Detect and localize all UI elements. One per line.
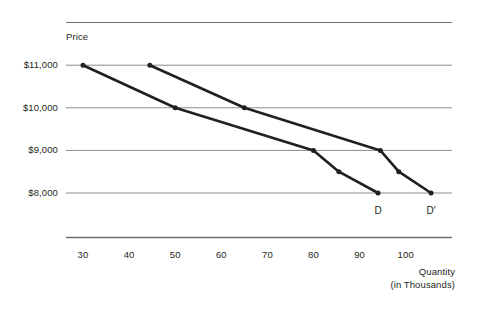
- x-tick-label-50: 50: [155, 249, 195, 260]
- data-point-marker: [242, 105, 247, 110]
- data-curves-group: [83, 65, 431, 193]
- data-point-marker: [147, 63, 152, 68]
- curve-D-line: [83, 65, 378, 193]
- curve-D-line: [150, 65, 431, 193]
- demand-curve-chart: Price Quantity (in Thousands) $8,000$9,0…: [0, 0, 478, 311]
- data-point-marker: [336, 169, 341, 174]
- data-point-marker: [378, 148, 383, 153]
- data-point-marker: [376, 191, 381, 196]
- data-point-marker: [81, 63, 86, 68]
- x-tick-label-40: 40: [109, 249, 149, 260]
- x-tick-label-80: 80: [294, 249, 334, 260]
- data-point-markers-group: [81, 63, 434, 196]
- x-tick-label-30: 30: [63, 249, 103, 260]
- y-tick-label-11000: $11,000: [24, 59, 58, 70]
- x-tick-label-100: 100: [386, 249, 426, 260]
- x-tick-label-70: 70: [247, 249, 287, 260]
- x-tick-label-60: 60: [201, 249, 241, 260]
- x-axis-title-line-2: (in Thousands): [390, 278, 455, 291]
- y-axis-title: Price: [66, 31, 88, 42]
- x-tick-label-90: 90: [340, 249, 380, 260]
- curve-end-label-d-prime: D′: [411, 205, 451, 216]
- data-point-marker: [311, 148, 316, 153]
- data-point-marker: [173, 105, 178, 110]
- x-axis-title-line-1: Quantity: [390, 265, 455, 278]
- y-tick-label-9000: $9,000: [28, 144, 58, 155]
- data-point-marker: [429, 191, 434, 196]
- curve-end-label-d: D: [358, 205, 398, 216]
- data-point-marker: [396, 169, 401, 174]
- y-tick-label-10000: $10,000: [23, 102, 58, 113]
- y-tick-label-8000: $8,000: [28, 187, 58, 198]
- x-axis-title: Quantity (in Thousands): [390, 265, 455, 291]
